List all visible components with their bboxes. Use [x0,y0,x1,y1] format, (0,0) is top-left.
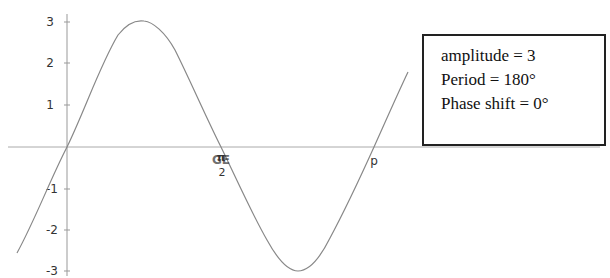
legend-phase-shift: Phase shift = 0° [441,92,604,116]
x-tick-label-pi: p [370,154,378,168]
svg-text:2: 2 [219,166,226,179]
x-tick-label-half-pi: π GE 2 [212,151,230,179]
y-tick-label-3: 3 [46,15,54,29]
legend-period: Period = 180° [441,68,604,92]
legend-amplitude: amplitude = 3 [441,44,604,68]
svg-text:GE: GE [212,153,230,167]
sine-curve [17,21,408,271]
y-tick-label-neg2: -2 [46,223,58,237]
y-tick-label-2: 2 [46,56,54,70]
y-tick-label-1: 1 [46,98,54,112]
legend-box: amplitude = 3 Period = 180° Phase shift … [422,34,606,146]
y-tick-label-neg3: -3 [46,264,58,278]
